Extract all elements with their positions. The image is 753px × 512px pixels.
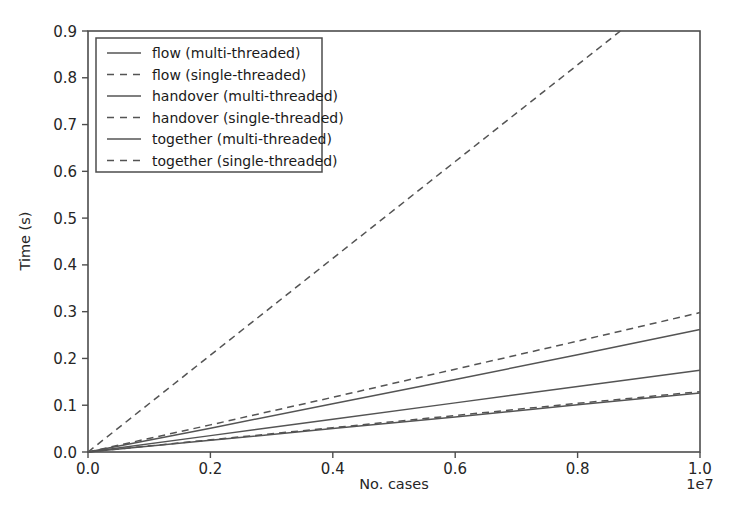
legend-label-together-multi-threaded: together (multi-threaded)	[152, 131, 332, 147]
y-tick-label: 0.5	[53, 210, 77, 228]
legend-label-handover-single-threaded: handover (single-threaded)	[152, 110, 344, 126]
x-tick-label: 0.2	[198, 460, 222, 478]
line-chart-canvas: 0.00.10.20.30.40.50.60.70.80.9 0.00.20.4…	[0, 0, 753, 512]
x-tick-label: 0.0	[76, 460, 100, 478]
y-tick-label: 0.6	[53, 163, 77, 181]
x-axis-exponent-label: 1e7	[686, 476, 713, 492]
y-tick-label: 0.3	[53, 303, 77, 321]
x-tick-label: 0.8	[566, 460, 590, 478]
x-tick-label: 0.6	[443, 460, 467, 478]
y-tick-label: 0.1	[53, 397, 77, 415]
chart-legend: flow (multi-threaded)flow (single-thread…	[96, 38, 344, 172]
x-tick-label: 0.4	[321, 460, 345, 478]
x-axis-title: No. cases	[359, 476, 429, 492]
y-tick-label: 0.2	[53, 350, 77, 368]
y-tick-label: 0.9	[53, 23, 77, 41]
legend-label-handover-multi-threaded: handover (multi-threaded)	[152, 88, 338, 104]
y-axis-title: Time (s)	[17, 212, 33, 272]
chart-figure: 0.00.10.20.30.40.50.60.70.80.9 0.00.20.4…	[0, 0, 753, 512]
y-tick-label: 0.0	[53, 444, 77, 462]
y-tick-label: 0.7	[53, 116, 77, 134]
legend-label-flow-single-threaded: flow (single-threaded)	[152, 67, 306, 83]
y-tick-label: 0.4	[53, 256, 77, 274]
legend-label-together-single-threaded: together (single-threaded)	[152, 153, 338, 169]
legend-label-flow-multi-threaded: flow (multi-threaded)	[152, 45, 300, 61]
y-tick-label: 0.8	[53, 69, 77, 87]
